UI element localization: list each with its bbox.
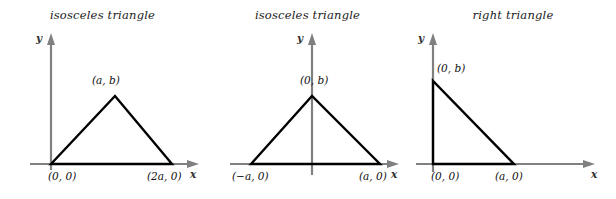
triangle-shape xyxy=(251,96,380,164)
triangle-coordinate-figure: isosceles triangle y x (a, b) (0, 0) (2a… xyxy=(0,0,616,199)
vertex-label-right: (a, 0) xyxy=(359,170,387,182)
y-axis-label: y xyxy=(297,32,303,44)
triangle-shape xyxy=(51,96,172,164)
vertex-label-top: (0, b) xyxy=(437,62,465,74)
vertex-label-apex: (0, b) xyxy=(300,74,328,86)
y-axis-label: y xyxy=(36,32,42,44)
vertex-label-right: (a, 0) xyxy=(495,170,523,182)
x-axis-label: x xyxy=(591,168,597,180)
panel-isosceles-origin: isosceles triangle y x (a, b) (0, 0) (2a… xyxy=(0,0,205,199)
panel-isosceles-centered: isosceles triangle y x (0, b) (−a, 0) (a… xyxy=(205,0,410,199)
vertex-label-apex: (a, b) xyxy=(92,74,120,86)
y-axis-label: y xyxy=(418,32,424,44)
y-axis xyxy=(308,33,316,175)
y-axis xyxy=(47,33,55,170)
vertex-label-origin: (0, 0) xyxy=(48,170,76,182)
panel-right-triangle: right triangle y x (0, b) (0, 0) (a, 0) xyxy=(410,0,616,199)
vertex-label-right: (2a, 0) xyxy=(147,170,182,182)
vertex-label-origin: (0, 0) xyxy=(431,170,459,182)
triangle-shape xyxy=(433,81,514,164)
x-axis-label: x xyxy=(190,168,196,180)
x-axis-label: x xyxy=(391,168,397,180)
vertex-label-left: (−a, 0) xyxy=(232,170,269,182)
